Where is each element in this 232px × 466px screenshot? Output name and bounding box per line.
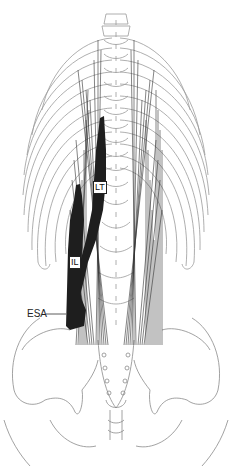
pelvis [4,318,228,466]
skeleton-illustration [0,0,232,466]
label-lt: LT [93,181,107,194]
label-esa: ESA [27,309,47,319]
anatomy-diagram: LT IL ESA [0,0,232,466]
rib-cage [23,14,209,330]
label-il: IL [69,256,81,269]
